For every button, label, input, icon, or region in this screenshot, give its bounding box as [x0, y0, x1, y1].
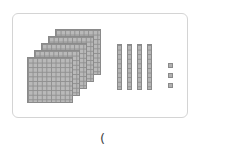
ten-rod: [137, 44, 142, 90]
blocks-frame: [12, 13, 188, 118]
ten-rod: [127, 44, 132, 90]
answer-blank: (: [100, 131, 105, 146]
one-unit: [168, 83, 173, 88]
one-unit: [168, 73, 173, 78]
one-unit: [168, 63, 173, 68]
ten-rod: [147, 44, 152, 90]
hundred-flat: [27, 57, 73, 103]
ten-rod: [117, 44, 122, 90]
